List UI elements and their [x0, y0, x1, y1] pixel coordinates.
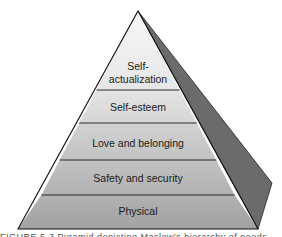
label-self-actualization-line2: actualization: [109, 73, 168, 85]
label-physical: Physical: [118, 205, 157, 217]
label-self-actualization-line1: Self-: [127, 60, 149, 72]
label-love-belonging: Love and belonging: [92, 137, 184, 149]
label-safety-security: Safety and security: [93, 172, 183, 184]
pyramid-diagram: Self- actualization Self-esteem Love and…: [0, 0, 282, 237]
label-self-esteem: Self-esteem: [110, 101, 166, 113]
figure-caption: FIGURE 5-3 Pyramid depicting Maslow's hi…: [0, 230, 282, 237]
